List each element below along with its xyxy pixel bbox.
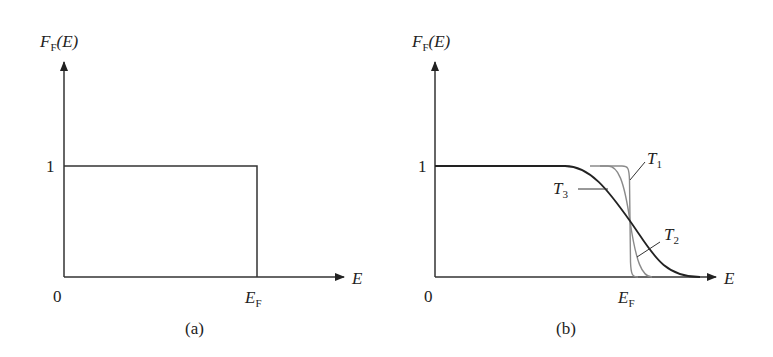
panel-a: FF(E) 1 0 EF E (a) — [39, 32, 363, 338]
panel-b: T1 T3 T2 FF(E) 1 0 EF E (b) — [411, 32, 735, 338]
x-axis-label: E — [351, 269, 363, 288]
y-tick-1: 1 — [46, 157, 55, 176]
step-function-curve — [64, 166, 257, 277]
x-tick-ef: EF — [244, 288, 262, 309]
t2-leader — [637, 242, 660, 257]
y-axis-label: FF(E) — [411, 32, 451, 53]
y-tick-1: 1 — [418, 157, 427, 176]
origin-label: 0 — [424, 287, 433, 306]
x-tick-ef: EF — [617, 288, 635, 309]
panel-caption-b: (b) — [556, 319, 576, 338]
label-t1: T1 — [647, 149, 662, 170]
curve-t1 — [600, 166, 638, 277]
figure-canvas: FF(E) 1 0 EF E (a) T1 T3 T2 FF — [0, 0, 773, 357]
x-axis-label: E — [723, 269, 735, 288]
label-t2: T2 — [664, 225, 679, 246]
label-t3: T3 — [553, 179, 568, 200]
origin-label: 0 — [53, 287, 62, 306]
curve-t3 — [435, 166, 700, 277]
y-axis-label: FF(E) — [39, 32, 79, 53]
t1-leader — [630, 162, 645, 180]
panel-caption-a: (a) — [185, 319, 204, 338]
